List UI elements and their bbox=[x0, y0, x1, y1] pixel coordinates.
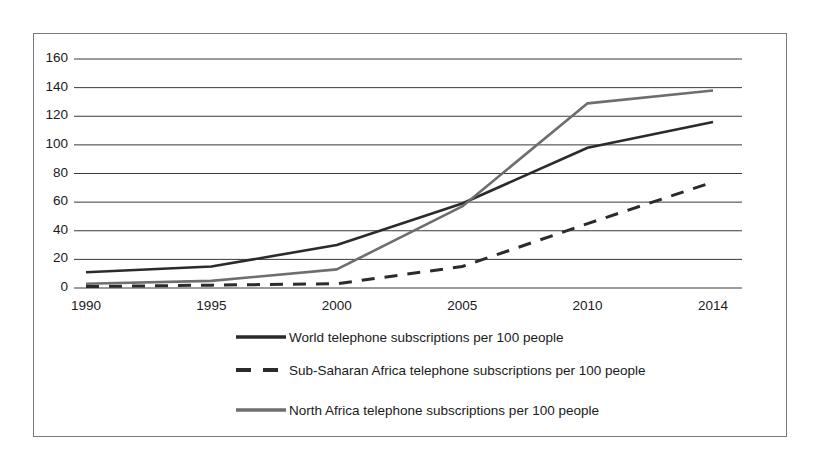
x-tick-label: 2010 bbox=[558, 299, 618, 313]
gridline-group bbox=[74, 59, 742, 259]
y-tick-label: 60 bbox=[28, 194, 68, 208]
series-line-group bbox=[86, 90, 713, 286]
y-tick-label: 0 bbox=[28, 280, 68, 294]
x-tick-label: 1990 bbox=[56, 299, 116, 313]
legend-item-sub-saharan-africa[interactable]: Sub-Saharan Africa telephone subscriptio… bbox=[235, 360, 646, 380]
x-tick-label: 2014 bbox=[683, 299, 743, 313]
legend-swatch-north-africa-line bbox=[235, 403, 287, 417]
y-tick-label: 20 bbox=[28, 251, 68, 265]
legend-swatch-sub-saharan-africa-line bbox=[235, 363, 287, 377]
y-tick-label: 160 bbox=[28, 51, 68, 65]
x-tick-label: 2005 bbox=[432, 299, 492, 313]
series-line-2 bbox=[86, 90, 713, 283]
line-chart-plot bbox=[0, 0, 817, 466]
y-tick-label: 120 bbox=[28, 108, 68, 122]
legend-item-north-africa[interactable]: North Africa telephone subscriptions per… bbox=[235, 400, 599, 420]
y-tick-label: 140 bbox=[28, 80, 68, 94]
y-tick-label: 100 bbox=[28, 137, 68, 151]
x-tick-label: 2000 bbox=[307, 299, 367, 313]
x-tick-label: 1995 bbox=[181, 299, 241, 313]
legend-item-world[interactable]: World telephone subscriptions per 100 pe… bbox=[235, 327, 563, 347]
y-tick-label: 40 bbox=[28, 223, 68, 237]
legend-label-sub-saharan-africa: Sub-Saharan Africa telephone subscriptio… bbox=[289, 363, 646, 378]
legend-swatch-world-line bbox=[235, 330, 287, 344]
y-tick-label: 80 bbox=[28, 166, 68, 180]
legend-label-north-africa: North Africa telephone subscriptions per… bbox=[289, 403, 599, 418]
legend-label-world: World telephone subscriptions per 100 pe… bbox=[289, 330, 563, 345]
series-line-1 bbox=[86, 182, 713, 286]
chart-figure: 160140120100806040200 199019952000200520… bbox=[0, 0, 817, 466]
